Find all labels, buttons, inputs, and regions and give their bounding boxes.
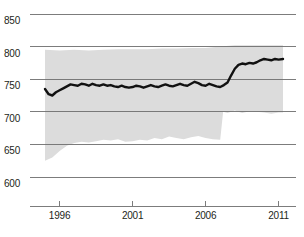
y-tick-label-750: 750 (4, 80, 21, 91)
x-tick-label-1996: 1996 (49, 210, 71, 221)
chart-container: 600650700750800850 1996200120062011 (0, 0, 304, 237)
y-tick-label-700: 700 (4, 113, 21, 124)
x-axis-tick-labels: 1996200120062011 (49, 210, 290, 221)
y-tick-label-650: 650 (4, 145, 21, 156)
y-axis-tick-labels: 600650700750800850 (4, 15, 21, 189)
y-tick-label-850: 850 (4, 15, 21, 26)
y-tick-label-800: 800 (4, 48, 21, 59)
x-tick-label-2006: 2006 (195, 210, 217, 221)
x-axis (30, 201, 296, 206)
x-tick-label-2001: 2001 (122, 210, 144, 221)
line-chart-with-uncertainty-band: 600650700750800850 1996200120062011 (0, 0, 304, 237)
x-tick-label-2011: 2011 (268, 210, 289, 221)
y-tick-label-600: 600 (4, 178, 21, 189)
